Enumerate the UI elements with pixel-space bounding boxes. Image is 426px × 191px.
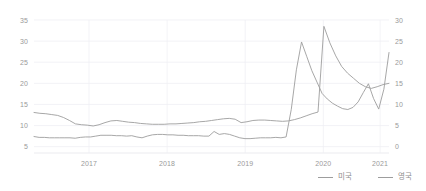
y-right-tick-label: 30: [395, 17, 419, 24]
y-left-tick-label: 15: [4, 101, 28, 108]
legend-item-uk[interactable]: 영국: [378, 173, 412, 181]
y-left-tick-label: 25: [4, 59, 28, 66]
y-left-tick-label: 10: [4, 122, 28, 129]
series-lines: [34, 26, 389, 138]
legend-item-us[interactable]: 미국: [318, 173, 352, 181]
y-right-tick-label: 25: [395, 38, 419, 45]
y-right-tick-label: 20: [395, 59, 419, 66]
y-right-tick-label: 5: [395, 122, 419, 129]
legend-line-icon-us: [318, 177, 333, 178]
line-chart: 3530252015105 302520151050 2017201820192…: [0, 0, 426, 191]
y-right-tick-label: 10: [395, 101, 419, 108]
y-left-tick-label: 30: [4, 38, 28, 45]
y-right-tick-label: 0: [395, 143, 419, 150]
legend-label-uk: 영국: [398, 173, 412, 181]
y-left-tick-label: 20: [4, 80, 28, 87]
y-left-tick-label: 5: [4, 143, 28, 150]
gridlines: [34, 20, 389, 153]
legend-label-us: 미국: [338, 173, 352, 181]
chart-legend: 미국 영국: [0, 166, 426, 188]
y-right-tick-label: 15: [395, 80, 419, 87]
y-left-tick-label: 35: [4, 17, 28, 24]
legend-line-icon-uk: [378, 177, 393, 178]
chart-canvas: [0, 0, 426, 191]
